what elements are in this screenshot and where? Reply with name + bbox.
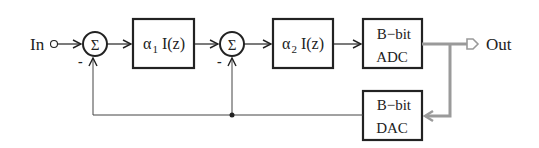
integrator-1-block: α1 I(z) <box>133 19 194 68</box>
summer-1-minus: - <box>78 54 83 69</box>
integrator-2-block: α2 I(z) <box>273 19 333 68</box>
adc-line1: B−bit <box>377 26 412 42</box>
input-label: In <box>30 35 45 54</box>
junction-dot <box>230 113 235 118</box>
dac-line2: DAC <box>376 120 408 136</box>
integrator-2-coef: α <box>282 35 291 52</box>
dac-line1: B−bit <box>377 97 412 113</box>
summer-1-symbol: Σ <box>91 37 100 53</box>
digital-bus-feedback <box>426 44 450 116</box>
adc-line2: ADC <box>376 49 408 65</box>
adc-block: B−bit ADC <box>363 19 422 68</box>
output-label: Out <box>486 35 512 54</box>
integrator-1-func: I(z) <box>158 35 185 53</box>
output-terminal-icon <box>467 39 478 49</box>
integrator-1-coef: α <box>143 35 152 52</box>
summer-2-symbol: Σ <box>228 37 237 53</box>
summer-2-minus: - <box>217 54 222 69</box>
summer-2: Σ - <box>217 32 244 69</box>
input-terminal-icon <box>51 41 58 48</box>
dac-block: B−bit DAC <box>363 91 422 140</box>
integrator-2-func: I(z) <box>297 35 324 53</box>
sigma-delta-diagram: In Σ - α1 I(z) Σ - α2 I(z) B−bit ADC Ou <box>0 0 539 148</box>
